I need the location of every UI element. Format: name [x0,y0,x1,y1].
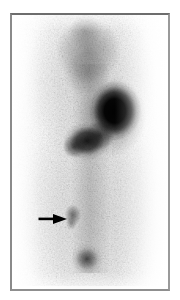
scan-frame [10,13,170,291]
screenshot-root [0,0,180,300]
dominant-focus-region [12,15,168,289]
secondary-focus-region [12,15,168,289]
midline-activity-band [12,64,168,272]
body-background-field [12,15,168,289]
fine-grain-noise-overlay [12,15,168,286]
scintigram-canvas [12,15,168,289]
inferior-midline-focus-region [12,15,168,289]
edge-falloff-overlay [12,15,168,289]
upper-diffuse-uptake-region [12,15,168,289]
arrowed-lesion-region [12,15,168,289]
lesion-pointer-arrow-icon [38,212,68,226]
speckle-noise-overlay [12,15,168,286]
